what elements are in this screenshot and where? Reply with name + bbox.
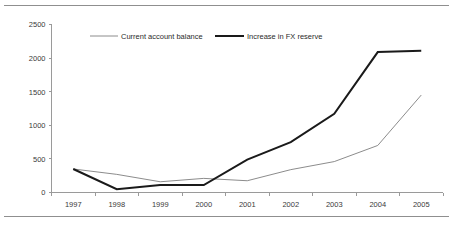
x-tick-label: 1997 xyxy=(65,200,82,209)
x-tick-label: 2000 xyxy=(195,200,212,209)
x-tick-label: 2001 xyxy=(239,200,256,209)
bottom-divider-rule xyxy=(4,216,449,217)
series-line-fx-reserve xyxy=(73,51,421,189)
top-divider-rule xyxy=(4,5,449,6)
legend-label-current-account-balance: Current account balance xyxy=(121,32,203,41)
x-axis-tick-labels: 199719981999200020012002200320042005 xyxy=(65,200,430,209)
series-line-current-account-balance xyxy=(73,95,421,182)
x-tick-label: 1998 xyxy=(108,200,125,209)
y-tick-label: 2000 xyxy=(29,54,46,63)
series-group xyxy=(73,51,421,189)
legend-label-fx-reserve: Increase in FX reserve xyxy=(247,32,322,41)
chart-figure: 05001000150020002500 1997199819992000200… xyxy=(0,0,453,230)
x-tick-label: 2004 xyxy=(369,200,386,209)
plot-area: 05001000150020002500 1997199819992000200… xyxy=(0,12,453,212)
x-tick-label: 2005 xyxy=(413,200,430,209)
line-chart: 05001000150020002500 1997199819992000200… xyxy=(0,12,453,212)
y-axis-tick-labels: 05001000150020002500 xyxy=(29,20,46,197)
y-tick-label: 500 xyxy=(33,155,46,164)
y-tick-label: 1000 xyxy=(29,121,46,130)
y-tick-label: 0 xyxy=(41,188,45,197)
x-tick-label: 2002 xyxy=(282,200,299,209)
x-tick-label: 2003 xyxy=(326,200,343,209)
y-tick-label: 2500 xyxy=(29,20,46,29)
y-tick-label: 1500 xyxy=(29,88,46,97)
chart-legend: Current account balance Increase in FX r… xyxy=(90,32,322,41)
x-tick-label: 1999 xyxy=(152,200,169,209)
